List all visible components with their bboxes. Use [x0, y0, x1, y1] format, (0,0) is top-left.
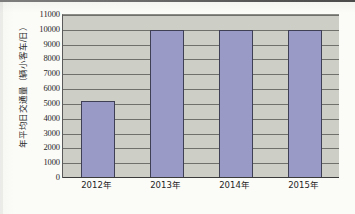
y-tick-label: 8000	[20, 54, 60, 63]
y-tick-label: 0	[20, 173, 60, 182]
x-tick-label: 2014年	[219, 180, 250, 190]
scan-top-rule	[0, 0, 355, 2]
y-tick-label: 2000	[20, 143, 60, 152]
y-tick-label: 1000	[20, 158, 60, 167]
y-tick-label: 7000	[20, 69, 60, 78]
bar	[219, 30, 253, 178]
x-axis-baseline	[63, 177, 339, 178]
bar	[81, 101, 115, 178]
x-tick-label: 2013年	[150, 180, 181, 190]
plot-area	[62, 14, 339, 178]
bar	[150, 30, 184, 178]
scan-left-edge	[0, 2, 3, 214]
x-tick-label: 2012年	[81, 180, 112, 190]
y-tick-label: 4000	[20, 113, 60, 122]
y-tick-label: 10000	[20, 25, 60, 34]
gridline	[63, 15, 339, 16]
y-tick-label: 11000	[20, 10, 60, 19]
plot-inner	[63, 15, 339, 178]
y-axis-tick-labels: 1100010000900080007000600050004000300020…	[20, 14, 60, 177]
bar-chart-figure: 年平均日交通量（辆小客车/日） 110001000090008000700060…	[0, 0, 355, 214]
x-axis-tick-labels: 2012年2013年2014年2015年	[62, 180, 339, 200]
y-tick-label: 3000	[20, 128, 60, 137]
y-tick-label: 5000	[20, 99, 60, 108]
y-tick-label: 6000	[20, 84, 60, 93]
y-tick-label: 9000	[20, 39, 60, 48]
bar	[288, 30, 322, 178]
x-tick-label: 2015年	[288, 180, 319, 190]
